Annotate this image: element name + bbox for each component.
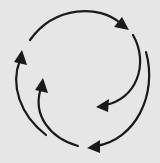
cycle-diagram: [0, 0, 160, 163]
arrow-left-outer-arc: [14, 50, 46, 135]
arrow-left-inner-arc: [35, 78, 78, 146]
arrow-right-inner-arc: [96, 35, 140, 112]
arrowhead-icon: [35, 78, 48, 93]
arrow-top-arc: [30, 11, 129, 40]
arrowhead-icon: [96, 99, 109, 112]
arrowhead-icon: [87, 140, 100, 153]
arrowhead-icon: [14, 50, 27, 65]
